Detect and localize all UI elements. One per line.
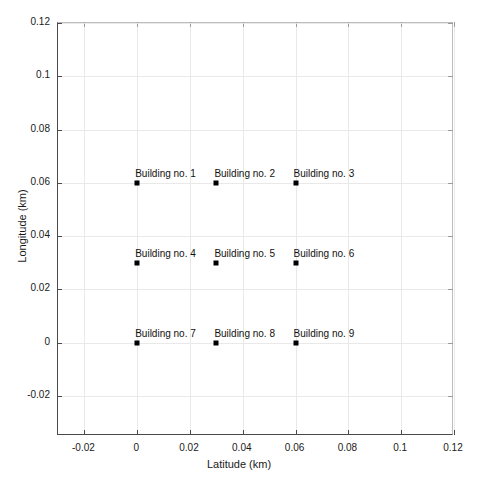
- x-axis-tick-label: 0.08: [338, 442, 357, 454]
- y-axis-tick-label: -0.02: [10, 389, 50, 401]
- data-point-label: Building no. 1: [135, 168, 196, 179]
- data-point-label: Building no. 4: [135, 248, 196, 259]
- y-axis-title: Longitude (km): [16, 156, 28, 296]
- x-axis-tick-label: 0.06: [285, 442, 304, 454]
- data-point-label: Building no. 2: [214, 168, 275, 179]
- y-axis-tick-label: 0.12: [10, 16, 50, 28]
- x-axis-tick-top: [454, 22, 455, 27]
- y-axis-tick-label: 0.08: [10, 123, 50, 135]
- data-point: [293, 180, 298, 185]
- x-axis-tick-label: 0.02: [179, 442, 198, 454]
- data-point: [214, 180, 219, 185]
- chart-figure: Building no. 1Building no. 2Building no.…: [0, 0, 478, 484]
- y-axis-tick-label: 0: [10, 336, 50, 348]
- x-axis-tick-label: 0.04: [232, 442, 251, 454]
- y-axis-tick-label: 0.1: [10, 69, 50, 81]
- data-point-label: Building no. 6: [294, 248, 355, 259]
- x-axis-tick-label: -0.02: [72, 442, 95, 454]
- x-axis-tick: [454, 430, 455, 435]
- data-point: [135, 180, 140, 185]
- data-point-label: Building no. 8: [214, 328, 275, 339]
- data-point: [135, 340, 140, 345]
- data-point: [293, 340, 298, 345]
- data-point-label: Building no. 5: [214, 248, 275, 259]
- x-axis-tick-label: 0.12: [443, 442, 462, 454]
- x-axis-tick-label: 0.1: [393, 442, 407, 454]
- data-point-label: Building no. 3: [294, 168, 355, 179]
- data-point: [214, 260, 219, 265]
- x-axis-title: Latitude (km): [0, 458, 478, 470]
- x-axis-tick-label: 0: [133, 442, 139, 454]
- data-point: [214, 340, 219, 345]
- plot-area: Building no. 1Building no. 2Building no.…: [57, 22, 453, 435]
- data-point-label: Building no. 9: [294, 328, 355, 339]
- data-point: [135, 260, 140, 265]
- gridline-vertical: [454, 23, 455, 434]
- data-point-label: Building no. 7: [135, 328, 196, 339]
- data-point: [293, 260, 298, 265]
- data-point-layer: Building no. 1Building no. 2Building no.…: [58, 23, 452, 434]
